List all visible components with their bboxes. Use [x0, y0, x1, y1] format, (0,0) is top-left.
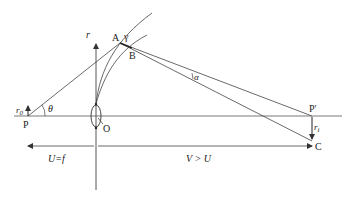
r-axis-label: r [86, 29, 90, 40]
P-prime-label: P′ [309, 103, 317, 114]
wavefront-inner-curve [96, 35, 147, 104]
alpha-marker [192, 73, 193, 79]
U-eq-f-label: U=f [48, 153, 66, 164]
theta-label: θ [48, 103, 53, 114]
B-label: B [129, 50, 136, 61]
alpha-label: α [194, 72, 199, 82]
A-label: A [112, 32, 120, 43]
ray-A-to-C [120, 43, 312, 141]
P-label: P [23, 119, 29, 130]
optics-ray-diagram: r O A γ B α θ r0 P P′ ri C U=f V > U [0, 0, 349, 200]
O-label: O [103, 123, 110, 134]
ri-label: ri [314, 122, 320, 134]
ray-P-to-A [28, 43, 120, 116]
wavefront-outer-curve [96, 13, 152, 104]
lens-bottom-point [95, 127, 97, 129]
ray-B-to-P-prime [128, 46, 312, 116]
r0-label: r0 [16, 105, 24, 117]
V-gt-U-label: V > U [186, 153, 212, 164]
theta-arc [42, 105, 45, 116]
C-label: C [315, 141, 322, 152]
gamma-label: γ [123, 31, 129, 42]
